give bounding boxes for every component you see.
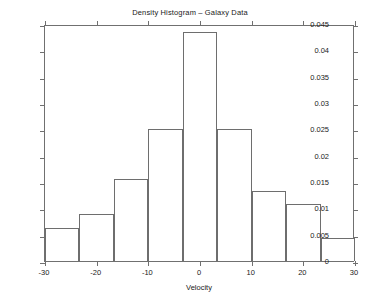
histogram-bar <box>252 191 286 261</box>
y-axis-tick <box>353 131 358 132</box>
x-axis-tick-label: -30 <box>24 268 64 277</box>
histogram-bar <box>183 32 217 261</box>
x-axis-tick <box>97 261 98 266</box>
y-axis-tick <box>40 79 45 80</box>
x-axis-title: Velocity <box>44 283 354 292</box>
x-axis-tick <box>303 261 304 266</box>
histogram-bar <box>217 129 251 261</box>
y-axis-tick <box>353 237 358 238</box>
y-axis-tick <box>353 210 358 211</box>
y-axis-tick <box>40 105 45 106</box>
histogram-bar <box>114 179 148 261</box>
bars-layer <box>45 26 353 261</box>
y-axis-tick <box>40 210 45 211</box>
histogram-figure: Density Histogram – Galaxy Data 00.0050.… <box>0 0 380 305</box>
y-axis-tick <box>353 105 358 106</box>
x-axis-tick <box>252 261 253 266</box>
x-axis-tick <box>303 21 304 26</box>
y-axis-tick <box>40 52 45 53</box>
x-axis-tick <box>45 261 46 266</box>
x-axis-tick <box>200 21 201 26</box>
x-axis-tick-label: 30 <box>334 268 374 277</box>
x-axis-tick-label: -10 <box>127 268 167 277</box>
y-axis-tick <box>40 26 45 27</box>
x-axis-tick <box>355 21 356 26</box>
chart-title: Density Histogram – Galaxy Data <box>0 8 380 17</box>
x-axis-tick <box>148 21 149 26</box>
x-axis-tick-label: -20 <box>76 268 116 277</box>
x-axis-tick <box>45 21 46 26</box>
y-axis-tick <box>40 237 45 238</box>
x-axis-tick <box>200 261 201 266</box>
y-axis-tick <box>353 158 358 159</box>
x-axis-tick-label: 10 <box>231 268 271 277</box>
y-axis-tick <box>353 26 358 27</box>
x-axis-tick <box>355 261 356 266</box>
histogram-bar <box>148 129 182 261</box>
x-axis-tick <box>97 21 98 26</box>
histogram-bar <box>321 238 355 261</box>
x-axis-tick <box>148 261 149 266</box>
histogram-bar <box>79 214 113 261</box>
y-axis-tick <box>353 79 358 80</box>
y-axis-tick <box>353 184 358 185</box>
histogram-bar <box>45 228 79 261</box>
plot-area <box>44 25 354 262</box>
y-axis-tick <box>40 131 45 132</box>
y-axis-tick <box>40 158 45 159</box>
y-axis-tick <box>40 184 45 185</box>
histogram-bar <box>286 204 320 261</box>
x-axis-tick-label: 0 <box>179 268 219 277</box>
x-axis-tick <box>252 21 253 26</box>
x-axis-tick-label: 20 <box>282 268 322 277</box>
y-axis-tick <box>353 52 358 53</box>
